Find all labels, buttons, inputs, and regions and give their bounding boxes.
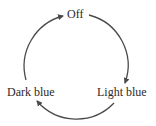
state-label-light-blue: Light blue [97,85,147,99]
state-cycle-diagram: Off Light blue Dark blue [0,0,156,126]
arrow-off-to-light-blue [89,15,128,83]
state-label-off: Off [67,7,83,21]
arrow-dark-blue-to-off [24,16,63,80]
arrow-light-blue-to-dark-blue [37,101,114,119]
state-label-dark-blue: Dark blue [7,85,55,99]
